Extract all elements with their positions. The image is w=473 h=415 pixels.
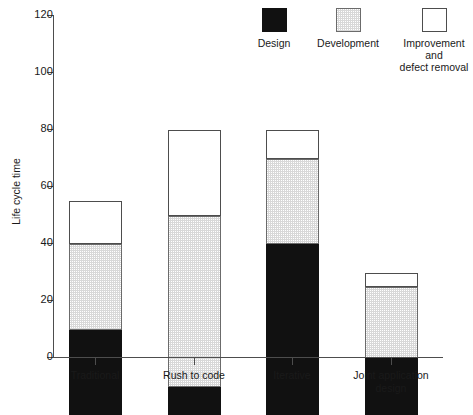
x-axis-tick [95,358,96,365]
x-axis-tick [391,358,392,365]
x-axis-line [53,357,443,358]
bar-segment-development [266,159,319,245]
legend-label-improvement: Improvement [389,37,473,49]
legend-item-improvement: Improvement and defect removal [389,8,473,73]
y-axis-tick-label: 0 [9,351,53,362]
chart-legend: Design Development Improvement and defec… [243,8,448,72]
y-axis-tick-label: 80 [9,123,53,134]
x-axis-tick [292,358,293,365]
legend-item-development: Development [310,8,386,49]
y-axis-tick-label: 100 [9,66,53,77]
y-axis-tick-label: 20 [9,294,53,305]
y-axis-tick-label: 120 [9,9,53,20]
bar-segment-development [365,287,418,358]
x-axis-label-joint-application-design: Joint application design [331,369,451,394]
legend-item-design: Design [243,8,305,49]
bar-segment-design [168,387,221,415]
y-axis-title: Life cycle time [11,137,22,247]
x-axis-label-line: design [331,382,451,395]
bar-segment-design [266,244,319,415]
legend-swatch-development-icon [336,8,361,32]
bar-segment-improvement [168,130,221,216]
legend-swatch-design-icon [262,8,287,32]
legend-label-improvement-line2: and [389,49,473,61]
legend-swatch-improvement-icon [422,8,447,32]
bar-segment-improvement [69,201,122,244]
legend-label-improvement-line3: defect removal [389,61,473,73]
legend-label-development: Development [310,37,386,49]
legend-label-design: Design [243,37,305,49]
x-axis-tick [194,358,195,365]
y-axis-line [53,15,54,357]
bar-segment-improvement [266,130,319,159]
bar-segment-improvement [365,273,418,287]
bar-segment-development [69,244,122,330]
x-axis-label-line: Joint application [331,369,451,382]
